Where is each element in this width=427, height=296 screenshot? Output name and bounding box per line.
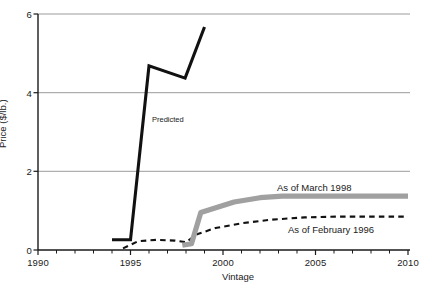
y-tick-label-4: 4 <box>20 87 32 98</box>
y-tick-label-0: 0 <box>20 245 32 256</box>
x-tick-label-1995: 1995 <box>120 257 142 268</box>
gridlines <box>38 14 410 171</box>
chart-figure: 6 4 2 0 1990 1995 2000 2005 2010 Price (… <box>0 0 427 296</box>
annotation-as-of-march-1998: As of March 1998 <box>277 182 351 193</box>
annotation-predicted: Predicted <box>152 115 184 124</box>
x-axis-title: Vintage <box>222 271 254 282</box>
x-tick-label-2000: 2000 <box>212 257 234 268</box>
series-line-predicted <box>112 27 205 240</box>
y-tick-label-2: 2 <box>20 166 32 177</box>
annotation-as-of-february-1996: As of February 1996 <box>288 224 374 235</box>
y-tick-label-6: 6 <box>20 9 32 20</box>
axis-lines <box>38 14 410 250</box>
series-line-march-1998 <box>182 196 408 245</box>
chart-plot-area <box>0 0 427 296</box>
x-tick-label-2005: 2005 <box>305 257 327 268</box>
x-tick-label-2010: 2010 <box>397 257 419 268</box>
y-axis-title: Price ($/lb.) <box>0 99 8 148</box>
x-tick-label-1990: 1990 <box>27 257 49 268</box>
